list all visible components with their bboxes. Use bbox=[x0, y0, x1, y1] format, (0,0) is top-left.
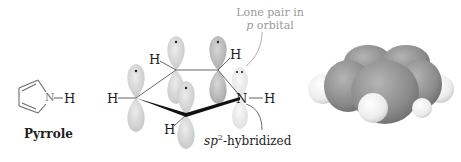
hydrogen-sphere-front-right bbox=[412, 98, 432, 118]
space-filling-spheres bbox=[0, 0, 461, 162]
hydrogen-sphere-front-left bbox=[358, 93, 388, 123]
